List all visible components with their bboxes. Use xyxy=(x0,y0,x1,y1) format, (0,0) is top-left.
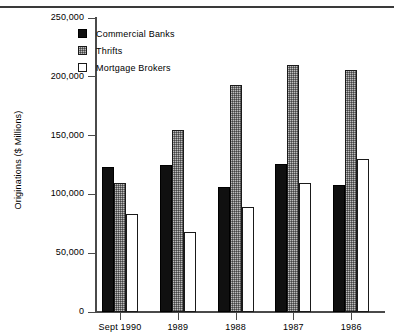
legend-swatch-brokers xyxy=(78,63,87,72)
y-tick-label: 250,000 xyxy=(14,13,84,22)
bar-commercial xyxy=(275,164,287,312)
bar-thrifts xyxy=(287,65,299,312)
bar-brokers xyxy=(126,214,138,312)
y-tick-mark xyxy=(88,18,96,19)
bar-commercial xyxy=(102,167,114,312)
y-tick-label: 100,000 xyxy=(14,189,84,198)
y-axis-title: Originations ($ Millions) xyxy=(13,90,23,230)
top-divider-rule xyxy=(0,6,394,8)
x-tick-mark xyxy=(120,313,121,320)
x-tick-mark xyxy=(236,313,237,320)
legend-label: Mortgage Brokers xyxy=(96,63,171,73)
legend-item: Thrifts xyxy=(78,43,175,58)
bar-thrifts xyxy=(230,85,242,312)
bar-thrifts xyxy=(114,183,126,312)
bar-thrifts xyxy=(172,130,184,312)
chart-legend: Commercial BanksThriftsMortgage Brokers xyxy=(78,26,175,77)
bar-commercial xyxy=(333,185,345,312)
legend-item: Mortgage Brokers xyxy=(78,60,175,75)
bar-thrifts xyxy=(345,70,357,312)
y-tick-label: 50,000 xyxy=(14,248,84,257)
legend-swatch-thrifts xyxy=(78,46,87,55)
bar-chart-figure: Originations ($ Millions) 050,000100,000… xyxy=(0,0,394,336)
legend-label: Commercial Banks xyxy=(96,29,175,39)
x-tick-mark xyxy=(178,313,179,320)
bar-brokers xyxy=(299,183,311,312)
legend-label: Thrifts xyxy=(96,46,122,56)
y-tick-label: 150,000 xyxy=(14,131,84,140)
bar-commercial xyxy=(218,187,230,312)
legend-swatch-commercial xyxy=(78,29,87,38)
y-tick-mark xyxy=(88,253,96,254)
y-tick-label: 0 xyxy=(14,307,84,316)
y-tick-mark xyxy=(88,312,96,313)
bar-brokers xyxy=(357,159,369,312)
bar-brokers xyxy=(242,207,254,312)
y-tick-label: 200,000 xyxy=(14,72,84,81)
y-tick-mark xyxy=(88,135,96,136)
bar-brokers xyxy=(184,232,196,312)
x-tick-mark xyxy=(293,313,294,320)
x-tick-label: 1986 xyxy=(311,322,391,332)
legend-item: Commercial Banks xyxy=(78,26,175,41)
bar-commercial xyxy=(160,165,172,312)
y-tick-mark xyxy=(88,194,96,195)
x-tick-mark xyxy=(351,313,352,320)
